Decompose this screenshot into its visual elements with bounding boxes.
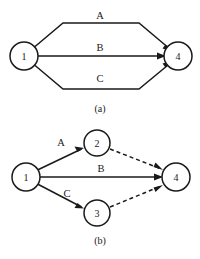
panel-a-edge-b: B	[38, 42, 166, 60]
panel-a-edge-c: C	[35, 61, 173, 89]
edge-b-a-path	[38, 149, 82, 170]
edge-2-4-path	[110, 149, 160, 169]
edge-b-label: B	[96, 42, 103, 53]
node-1-label: 1	[22, 51, 27, 62]
figure-canvas: A B C 1 4	[0, 0, 200, 259]
panel-b-edge-a: A	[38, 137, 85, 171]
panel-a-caption: (a)	[94, 103, 105, 115]
panel-b-caption: (b)	[94, 235, 106, 247]
edge-b-a-label: A	[57, 137, 65, 148]
panel-b-edge-b: B	[40, 163, 163, 181]
panel-b-node-4[interactable]: 4	[162, 163, 190, 191]
panel-a-node-1[interactable]: 1	[10, 42, 38, 70]
edge-3-4-path	[110, 187, 160, 208]
edge-b-c-label: C	[63, 188, 70, 199]
panel-b-edge-3-4	[110, 185, 163, 207]
edge-c-label: C	[96, 73, 103, 84]
node-4-label: 4	[174, 172, 179, 183]
panel-a: A B C 1 4	[10, 10, 192, 115]
panel-b-edge-c: C	[38, 184, 85, 209]
panel-b-node-1[interactable]: 1	[12, 163, 40, 191]
node-2-label: 2	[95, 138, 100, 149]
panel-b-node-3[interactable]: 3	[84, 200, 110, 226]
node-1-label: 1	[24, 172, 29, 183]
edge-a-label: A	[96, 10, 104, 21]
edge-b-b-label: B	[97, 163, 104, 174]
edge-3-4-arrowhead-icon	[154, 185, 164, 192]
activity-network-figure: A B C 1 4	[0, 0, 200, 259]
panel-b-edge-2-4	[110, 149, 163, 170]
node-4-label: 4	[176, 51, 181, 62]
panel-a-node-4[interactable]: 4	[164, 42, 192, 70]
node-3-label: 3	[95, 208, 100, 219]
panel-b: A B C	[12, 130, 190, 247]
panel-b-node-2[interactable]: 2	[84, 130, 110, 156]
edge-2-4-arrowhead-icon	[154, 163, 164, 171]
edge-b-c-path	[38, 184, 82, 207]
